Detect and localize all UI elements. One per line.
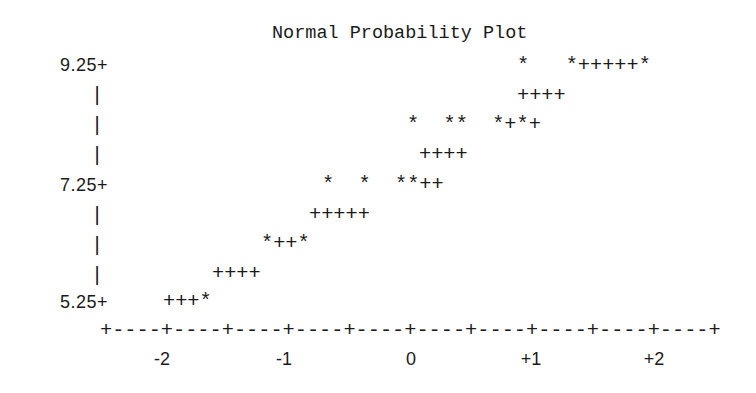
- chart-title: Normal Probability Plot: [272, 24, 527, 44]
- y-tick-label-7-25: 7.25+: [0, 175, 108, 195]
- y-axis-bar: |: [91, 236, 103, 256]
- plot-row-8-75: ++++: [517, 86, 566, 106]
- plot-row-5-75: ++++: [212, 264, 261, 284]
- x-tick-label-minus-2: -2: [132, 349, 192, 369]
- y-axis-bar: |: [91, 146, 103, 166]
- x-tick-label-plus-1: +1: [501, 349, 561, 369]
- plot-row-7-25: * * **++: [322, 175, 444, 195]
- y-axis-bar: |: [91, 116, 103, 136]
- plot-row-9-25: * *+++++*: [517, 56, 651, 76]
- x-tick-label-0: 0: [381, 349, 441, 369]
- plot-row-5-25: +++*: [163, 292, 212, 312]
- plot-row-6-25: *++*: [261, 234, 310, 254]
- x-axis-line: +----+----+----+----+----+----+----+----…: [100, 321, 721, 341]
- normal-probability-plot: Normal Probability Plot 9.25+ | | | 7.25…: [0, 0, 756, 393]
- plot-row-7-75: ++++: [419, 145, 468, 165]
- x-tick-label-minus-1: -1: [254, 349, 314, 369]
- y-tick-label-9-25: 9.25+: [0, 55, 108, 75]
- y-axis-bar: |: [91, 266, 103, 286]
- y-tick-label-5-25: 5.25+: [0, 292, 108, 312]
- y-axis-bar: |: [91, 206, 103, 226]
- plot-row-6-75: +++++: [309, 205, 370, 225]
- x-tick-label-plus-2: +2: [624, 349, 684, 369]
- y-axis-bar: |: [91, 86, 103, 106]
- plot-row-8-25: * ** *+*+: [407, 115, 541, 135]
